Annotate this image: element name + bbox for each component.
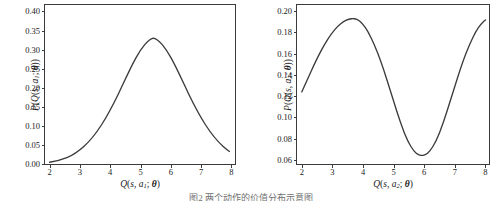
y-tick-mark [294,160,298,161]
x-tick-label: 8 [229,168,233,177]
x-tick-label: 3 [78,168,82,177]
y-tick-mark [294,54,298,55]
figure-caption: 图2 两个动作的价值分布示意图 [0,193,502,201]
x-tick-label: 2 [300,168,304,177]
x-tick-label: 2 [47,168,51,177]
y-tick-mark [42,107,46,108]
y-tick-mark [42,69,46,70]
x-axis-title-right: Q(s, a2; θ) [373,179,413,189]
x-tick-label: 6 [169,168,173,177]
y-tick-label: 0.18 [277,28,292,37]
y-tick-mark [294,11,298,12]
curve-left [45,5,235,164]
y-tick-label: 0.00 [25,160,40,169]
figure-container: 0.00 0.05 0.10 0.15 0.20 0.25 0.30 0.35 … [0,0,502,201]
x-axis-title-left: Q(s, a1; θ) [120,179,160,189]
plot-frame-left: 0.00 0.05 0.10 0.15 0.20 0.25 0.30 0.35 … [44,4,236,165]
y-tick-mark [42,164,46,165]
y-tick-label: 0.20 [277,7,292,16]
plot-frame-right: 0.06 0.08 0.10 0.12 0.14 0.16 0.18 0.20 … [296,4,490,165]
x-tick-label: 5 [138,168,142,177]
y-tick-mark [42,50,46,51]
y-tick-label: 0.16 [277,49,292,58]
y-tick-mark [294,32,298,33]
y-tick-label: 0.05 [25,141,40,150]
y-tick-mark [42,145,46,146]
x-tick-label: 3 [330,168,334,177]
y-tick-label: 0.10 [25,122,40,131]
y-tick-mark [42,88,46,89]
x-tick-label: 4 [361,168,365,177]
x-tick-label: 4 [108,168,112,177]
y-tick-label: 0.30 [25,45,40,54]
x-tick-label: 6 [422,168,426,177]
chart-panel-left: 0.00 0.05 0.10 0.15 0.20 0.25 0.30 0.35 … [0,0,251,195]
y-tick-mark [42,11,46,12]
y-axis-title-right: P(Q(s, a2; θ)) [283,59,293,111]
y-tick-label: 0.40 [25,7,40,16]
x-tick-label: 7 [199,168,203,177]
y-tick-mark [42,31,46,32]
y-tick-label: 0.35 [25,26,40,35]
y-tick-mark [294,139,298,140]
chart-panel-right: 0.06 0.08 0.10 0.12 0.14 0.16 0.18 0.20 … [251,0,502,195]
y-tick-label: 0.06 [277,156,292,165]
y-tick-mark [294,75,298,76]
x-tick-label: 5 [391,168,395,177]
y-tick-label: 0.08 [277,134,292,143]
curve-right [297,5,489,164]
y-tick-mark [42,126,46,127]
y-tick-mark [294,117,298,118]
x-tick-label: 7 [453,168,457,177]
y-axis-title-left: P(Q(s, a1; θ)) [30,59,40,111]
y-tick-label: 0.10 [277,113,292,122]
x-tick-label: 8 [483,168,487,177]
y-tick-mark [294,96,298,97]
